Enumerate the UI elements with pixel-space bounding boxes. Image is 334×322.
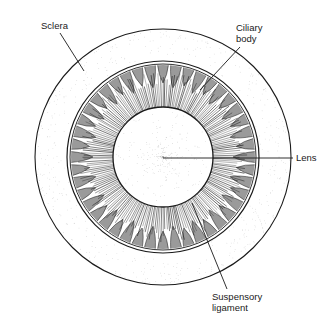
label-suspensory-line2: ligament: [212, 302, 262, 313]
label-ciliary-line1: Ciliary: [236, 22, 262, 33]
label-ciliary-line2: body: [236, 33, 262, 44]
label-sclera: Sclera: [41, 20, 68, 31]
label-suspensory-line1: Suspensory: [212, 291, 262, 302]
label-sclera-text: Sclera: [41, 20, 68, 31]
label-lens-text: Lens: [296, 152, 317, 163]
label-suspensory-ligament: Suspensory ligament: [212, 291, 262, 313]
label-lens: Lens: [296, 152, 317, 163]
label-ciliary-body: Ciliary body: [236, 22, 262, 44]
eye-cross-section-diagram: [0, 0, 334, 322]
sclera-leader-line: [60, 33, 84, 71]
